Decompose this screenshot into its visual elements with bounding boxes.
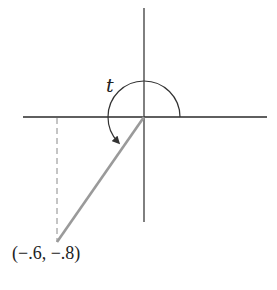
point-coordinates-label: (−.6, −.8): [12, 244, 80, 262]
angle-label-t: t: [106, 76, 114, 95]
diagram-canvas: t (−.6, −.8): [0, 0, 277, 290]
terminal-side-segment: [57, 117, 144, 242]
